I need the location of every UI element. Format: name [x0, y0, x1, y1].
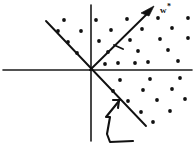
- data-point: [97, 39, 101, 43]
- data-point: [156, 16, 160, 20]
- canvas-background: [0, 0, 196, 148]
- data-point: [94, 18, 98, 22]
- data-point: [128, 38, 132, 42]
- data-point: [148, 77, 152, 81]
- data-point: [62, 18, 66, 22]
- data-point: [168, 109, 172, 113]
- data-point: [125, 17, 129, 21]
- data-point: [155, 98, 159, 102]
- data-point: [139, 110, 143, 114]
- data-point: [170, 87, 174, 91]
- data-point: [170, 26, 174, 30]
- data-point: [151, 120, 155, 124]
- data-point: [141, 88, 145, 92]
- diagram-canvas: w *: [0, 0, 196, 148]
- data-point: [118, 78, 122, 82]
- data-point: [166, 48, 170, 52]
- data-point: [136, 49, 140, 53]
- data-point: [126, 99, 130, 103]
- data-point: [116, 61, 120, 65]
- data-point: [146, 60, 150, 64]
- data-point: [186, 16, 190, 20]
- data-point: [103, 62, 107, 66]
- data-point: [178, 76, 182, 80]
- figure-root: w *: [0, 0, 196, 148]
- data-point: [140, 27, 144, 31]
- weight-vector-star-icon: *: [167, 2, 171, 11]
- data-point: [176, 59, 180, 63]
- weight-vector-label: w: [160, 5, 167, 15]
- data-point: [158, 37, 162, 41]
- data-point: [109, 28, 113, 32]
- data-point: [186, 36, 190, 40]
- data-point: [79, 29, 83, 33]
- data-point: [183, 97, 187, 101]
- data-point: [133, 61, 137, 65]
